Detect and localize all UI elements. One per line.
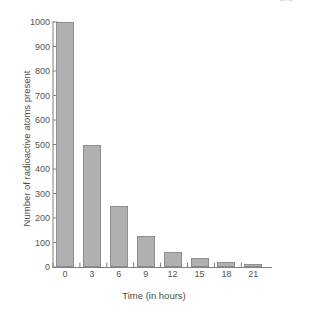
x-tick-15: 15	[187, 269, 213, 280]
x-tick-6: 6	[106, 269, 132, 280]
y-axis-title: Number of radioactive atoms present	[21, 39, 32, 259]
bar-0	[56, 22, 74, 267]
y-tick-1000: 1000	[22, 18, 50, 27]
bar-21	[244, 264, 262, 267]
bar-6	[110, 206, 128, 267]
x-axis-tick-labels: 0 3 6 9 12 15 18 21	[53, 269, 268, 283]
bar-15	[191, 258, 209, 267]
bar-3	[83, 145, 101, 268]
bar-series	[53, 22, 268, 267]
x-tick-21: 21	[240, 269, 266, 280]
bar-12	[164, 252, 182, 267]
x-tick-3: 3	[79, 269, 105, 280]
x-axis-title: Time (in hours)	[48, 290, 260, 301]
x-tick-0: 0	[52, 269, 78, 280]
bar-18	[217, 262, 235, 267]
y-tick-0: 0	[22, 263, 50, 272]
bar-9	[137, 236, 155, 267]
x-tick-18: 18	[213, 269, 239, 280]
radioactive-decay-bar-chart: 1000 900 800 700 600 500 400 300 200 100…	[0, 0, 309, 313]
x-tick-12: 12	[160, 269, 186, 280]
x-tick-9: 9	[133, 269, 159, 280]
